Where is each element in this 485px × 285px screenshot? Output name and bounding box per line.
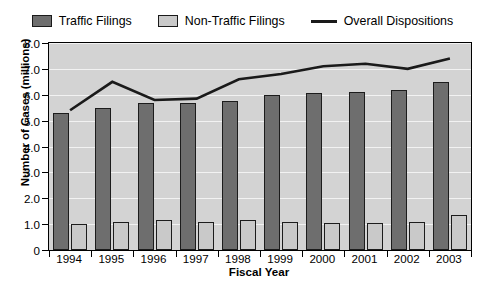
y-axis-tick <box>42 224 49 225</box>
x-axis-tick-label: 1997 <box>183 252 209 265</box>
x-axis-tick-label: 1994 <box>56 252 82 265</box>
x-axis-tick-label: 1999 <box>267 252 293 265</box>
x-axis-tick-label: 1998 <box>225 252 251 265</box>
y-axis-tick-label: 7.0 <box>6 62 40 75</box>
x-axis-tick <box>218 250 219 257</box>
y-axis-tick <box>42 43 49 44</box>
x-axis-tick <box>260 250 261 257</box>
y-axis-tick <box>42 172 49 173</box>
y-axis-tick <box>42 69 49 70</box>
y-axis-tick-label: 6.0 <box>6 88 40 101</box>
y-axis-tick <box>42 95 49 96</box>
x-axis-tick <box>133 250 134 257</box>
legend-swatch-icon-traffic <box>32 15 52 27</box>
y-axis-tick <box>42 198 49 199</box>
chart-legend: Traffic Filings Non-Traffic Filings Over… <box>0 10 485 32</box>
x-axis-tick <box>344 250 345 257</box>
x-axis-tick <box>91 250 92 257</box>
x-axis-tick-label: 2000 <box>309 252 335 265</box>
legend-label-nontraffic: Non-Traffic Filings <box>185 15 285 28</box>
legend-label-dispositions: Overall Dispositions <box>344 15 454 28</box>
y-axis-tick <box>42 250 49 251</box>
x-axis-tick <box>429 250 430 257</box>
y-axis-tick-label: 0 <box>6 244 40 257</box>
y-axis-tick-label: 3.0 <box>6 166 40 179</box>
x-axis-tick-label: 1995 <box>98 252 124 265</box>
y-axis-tick-label: 1.0 <box>6 218 40 231</box>
x-axis-tick <box>302 250 303 257</box>
x-axis-tick <box>176 250 177 257</box>
x-axis-title: Fiscal Year <box>48 265 470 278</box>
x-axis-tick-label: 1996 <box>141 252 167 265</box>
legend-item-overall-dispositions: Overall Dispositions <box>311 15 454 28</box>
chart-container: Traffic Filings Non-Traffic Filings Over… <box>0 0 485 285</box>
legend-line-icon-dispositions <box>311 20 337 23</box>
y-axis-tick-label: 2.0 <box>6 192 40 205</box>
x-axis-tick <box>387 250 388 257</box>
x-axis-tick <box>49 250 50 257</box>
x-ticks-layer <box>49 43 471 250</box>
legend-item-traffic-filings: Traffic Filings <box>32 15 132 28</box>
y-axis-tick-label: 8.0 <box>6 37 40 50</box>
y-axis-tick-label: 5.0 <box>6 114 40 127</box>
y-axis-tick <box>42 147 49 148</box>
x-axis-tick-label: 2002 <box>394 252 420 265</box>
x-axis-tick-label: 2001 <box>352 252 378 265</box>
x-axis-tick <box>471 250 472 257</box>
legend-label-traffic: Traffic Filings <box>59 15 132 28</box>
legend-swatch-icon-nontraffic <box>158 15 178 27</box>
x-axis-tick-label: 2003 <box>436 252 462 265</box>
y-axis-tick <box>42 121 49 122</box>
y-axis-tick-label: 4.0 <box>6 140 40 153</box>
legend-item-non-traffic-filings: Non-Traffic Filings <box>158 15 285 28</box>
plot-area: 01.02.03.04.05.06.07.08.0 <box>48 42 472 251</box>
